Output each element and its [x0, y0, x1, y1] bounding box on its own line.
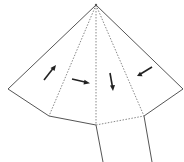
fold-line-left [49, 5, 96, 116]
arrow-right-icon [72, 79, 90, 85]
tail-left [96, 125, 103, 162]
apex-point [95, 4, 97, 6]
pyramid-net-diagram [0, 0, 184, 162]
fold-line-right [96, 5, 144, 116]
arrow-up-right-icon [44, 65, 56, 80]
arrow-down-icon [110, 73, 115, 91]
arrow-down-left-icon [137, 67, 152, 76]
outline-right [96, 5, 183, 116]
tail-right [144, 116, 152, 162]
outline-left [8, 5, 96, 125]
fold-line-bottom [96, 116, 144, 125]
